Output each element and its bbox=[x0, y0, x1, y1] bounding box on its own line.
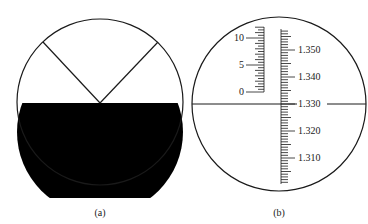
right-scale bbox=[281, 29, 295, 184]
crosshair-right-line bbox=[100, 42, 158, 103]
panel-b: 10 5 0 1.350 1.340 1.330 1.320 1.310 (b) bbox=[192, 17, 366, 219]
right-scale-label-1350: 1.350 bbox=[298, 44, 321, 55]
right-scale-label-1320: 1.320 bbox=[298, 125, 321, 136]
left-scale-label-10: 10 bbox=[234, 32, 244, 43]
crosshair-left-line bbox=[43, 42, 100, 103]
right-scale-label-1330: 1.330 bbox=[298, 98, 321, 109]
left-scale-label-0: 0 bbox=[239, 86, 244, 97]
panel-a: (a) bbox=[17, 19, 183, 219]
refractometer-diagram: (a) 10 5 0 1.350 1.340 1.330 1.320 1.310… bbox=[0, 0, 368, 224]
left-scale bbox=[246, 27, 264, 92]
right-scale-label-1310: 1.310 bbox=[298, 152, 321, 163]
caption-a: (a) bbox=[94, 207, 105, 219]
left-scale-label-5: 5 bbox=[239, 59, 244, 70]
caption-b: (b) bbox=[273, 207, 285, 219]
right-scale-label-1340: 1.340 bbox=[298, 71, 321, 82]
dark-field bbox=[17, 103, 183, 198]
